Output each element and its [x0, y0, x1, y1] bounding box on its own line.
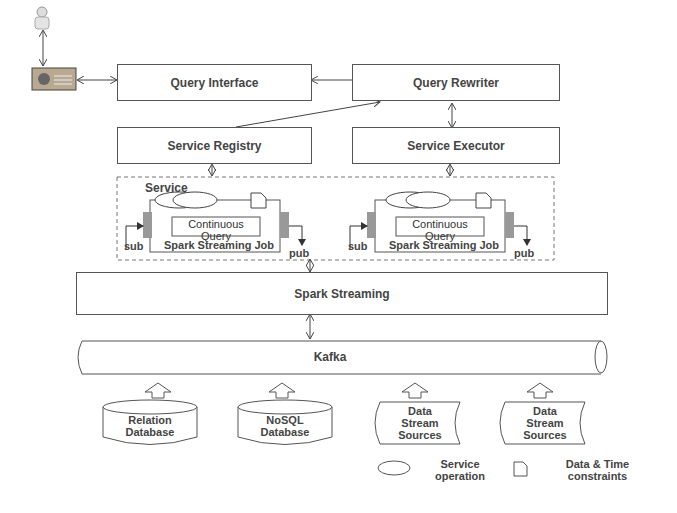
label-line: Relation	[103, 414, 197, 426]
pub-label: pub	[289, 247, 309, 259]
data-stream-sources-1: Data Stream Sources	[378, 405, 462, 441]
label-line: Data	[503, 405, 587, 417]
pub-label: pub	[514, 247, 534, 259]
spark-job-label: Spark Streaming Job	[160, 239, 278, 251]
label-line: Sources	[378, 429, 462, 441]
query-rewriter-box: Query Rewriter	[352, 64, 560, 101]
sub-label: sub	[124, 240, 144, 252]
nosql-database: NoSQL Database	[238, 414, 332, 438]
data-stream-sources-2: Data Stream Sources	[503, 405, 587, 441]
document-icon	[514, 462, 527, 476]
legend-line: Service	[425, 458, 495, 470]
legend-line: operation	[425, 470, 495, 482]
service-registry-box: Service Registry	[117, 127, 312, 164]
ellipse-icon	[378, 461, 410, 475]
kafka-label: Kafka	[300, 351, 360, 363]
query-interface-box: Query Interface	[117, 64, 312, 101]
label-line: Database	[238, 426, 332, 438]
legend-service-operation: Service operation	[425, 458, 495, 482]
service-executor-box: Service Executor	[352, 127, 560, 164]
label-line: Stream	[378, 417, 462, 429]
label-line: Sources	[503, 429, 587, 441]
spark-job-label: Spark Streaming Job	[385, 239, 503, 251]
service-title: Service	[145, 182, 188, 194]
legend-line: Data & Time	[550, 458, 645, 470]
user-icon	[35, 7, 49, 29]
legend-data-time-constraints: Data & Time constraints	[550, 458, 645, 482]
legend-line: constraints	[550, 470, 645, 482]
label-line: NoSQL	[238, 414, 332, 426]
label-line: Database	[103, 426, 197, 438]
browser-icon	[32, 68, 76, 90]
label-line: Data	[378, 405, 462, 417]
relation-database: Relation Database	[103, 414, 197, 438]
sub-label: sub	[348, 240, 368, 252]
spark-streaming-box: Spark Streaming	[76, 272, 608, 315]
label-line: Stream	[503, 417, 587, 429]
